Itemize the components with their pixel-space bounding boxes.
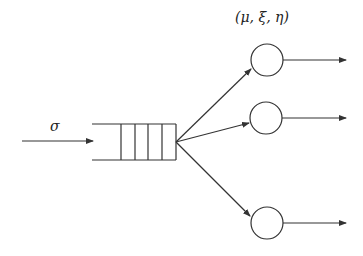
- route-arrow-3: [176, 142, 250, 216]
- queue-buffer: [92, 124, 176, 160]
- route-arrow-1: [176, 69, 251, 142]
- server-params-label: (μ, ξ, η): [235, 9, 289, 25]
- queueing-diagram: σ (μ, ξ, η): [0, 0, 363, 256]
- server-1: [251, 44, 283, 76]
- server-3: [251, 207, 283, 239]
- arrival-rate-label: σ: [50, 118, 60, 134]
- route-arrow-2: [176, 123, 249, 142]
- server-2: [250, 102, 282, 134]
